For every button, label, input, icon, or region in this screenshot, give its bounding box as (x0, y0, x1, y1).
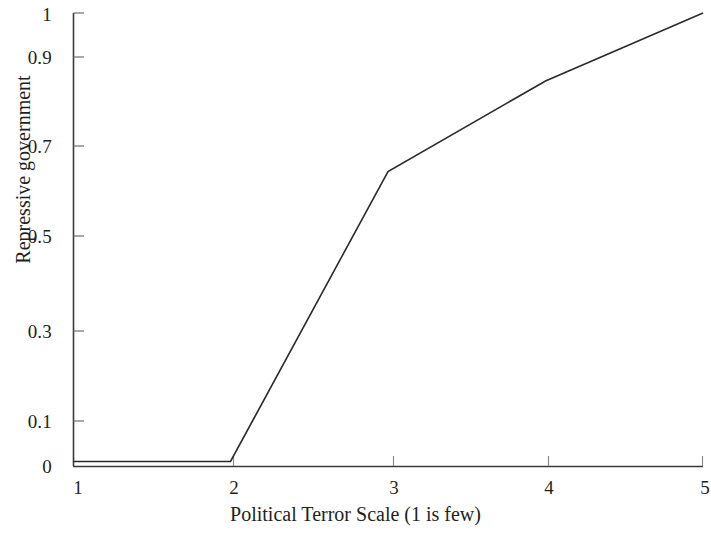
x-tick-label-1: 1 (73, 478, 83, 497)
y-axis-ticks (74, 13, 85, 421)
chart-plot-area (0, 0, 711, 534)
x-axis-title: Political Terror Scale (1 is few) (0, 503, 711, 526)
y-tick-label-0: 0 (20, 457, 52, 476)
data-series-line (73, 13, 703, 461)
y-tick-label-1: 1 (20, 5, 52, 24)
y-axis-title: Repressive government (12, 55, 35, 285)
y-tick-label-0-3: 0.3 (12, 322, 52, 341)
y-tick-label-0-1: 0.1 (12, 412, 52, 431)
x-tick-label-3: 3 (389, 478, 399, 497)
x-axis-ticks (234, 456, 703, 466)
x-tick-label-5: 5 (700, 478, 710, 497)
x-tick-label-2: 2 (229, 478, 239, 497)
x-tick-label-4: 4 (544, 478, 554, 497)
chart-figure: 1 0.9 0.7 0.5 0.3 0.1 0 1 2 3 4 5 Politi… (0, 0, 711, 534)
